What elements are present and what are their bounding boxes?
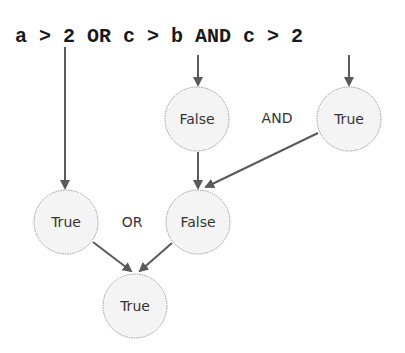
node-or-result: True [103,274,167,338]
node-label: True [119,298,150,314]
arrow-true-to-and [206,133,318,187]
node-label: False [179,111,214,127]
node-a-gt-2: True [34,190,98,254]
node-and-result: False [166,190,230,254]
node-label: True [333,111,364,127]
arrow-false-to-or [140,243,172,271]
node-label: False [180,214,215,230]
node-c-gt-b: False [165,87,229,151]
node-c-gt-2: True [317,87,381,151]
expression-text: a > 2 OR c > b AND c > 2 [15,25,303,48]
node-label: True [50,214,81,230]
evaluation-tree-diagram: a > 2 OR c > b AND c > 2 False True True… [0,0,405,353]
operator-and-label: AND [262,110,293,126]
arrow-true-to-or [93,242,131,271]
operator-or-label: OR [122,214,143,230]
